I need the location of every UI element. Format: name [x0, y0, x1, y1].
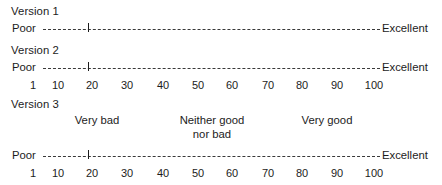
- version-1-heading: Version 1: [11, 5, 59, 17]
- scale-tick-label: 20: [86, 167, 98, 180]
- scale-tick-label: 50: [192, 79, 204, 92]
- version-3-anchor-poor: Poor: [12, 149, 36, 161]
- version-3-numeric-scale: 1102030405060708090100: [0, 167, 442, 180]
- scale-tick-label: 100: [365, 79, 383, 92]
- scale-tick-label: 20: [86, 79, 98, 92]
- version-1-anchor-excellent: Excellent: [382, 22, 428, 34]
- scale-tick-label: 40: [157, 79, 169, 92]
- version-3-anchor-excellent: Excellent: [382, 149, 428, 161]
- scale-tick-label: 90: [331, 79, 343, 92]
- version-2-heading: Version 2: [11, 44, 59, 56]
- scale-tick-label: 30: [121, 167, 133, 180]
- verbal-anchor-very-bad: Very bad: [75, 114, 120, 126]
- version-2-anchor-excellent: Excellent: [382, 61, 428, 73]
- scale-tick-label: 30: [121, 79, 133, 92]
- scale-tick-label: 10: [52, 167, 64, 180]
- version-2-response-tick[interactable]: [88, 62, 89, 71]
- scale-tick-label: 1: [30, 167, 36, 180]
- verbal-anchor-neither-good-line1: Neither good: [180, 114, 245, 126]
- scale-tick-label: 70: [262, 167, 274, 180]
- scale-tick-label: 80: [296, 167, 308, 180]
- rating-scale-figure: Version 1 Poor Excellent Version 2 Poor …: [0, 0, 442, 185]
- scale-tick-label: 50: [192, 167, 204, 180]
- version-1-scale-line[interactable]: [43, 29, 380, 30]
- version-2-numeric-scale: 1102030405060708090100: [0, 79, 442, 92]
- version-1-anchor-poor: Poor: [12, 22, 36, 34]
- scale-tick-label: 40: [157, 167, 169, 180]
- version-2-scale-line[interactable]: [43, 68, 380, 69]
- version-3-scale-line[interactable]: [43, 156, 380, 157]
- scale-tick-label: 10: [52, 79, 64, 92]
- version-3-response-tick[interactable]: [88, 150, 89, 159]
- scale-tick-label: 70: [262, 79, 274, 92]
- scale-tick-label: 60: [226, 79, 238, 92]
- scale-tick-label: 100: [365, 167, 383, 180]
- scale-tick-label: 80: [296, 79, 308, 92]
- verbal-anchor-neither-good-line2: nor bad: [193, 128, 231, 140]
- version-2-anchor-poor: Poor: [12, 61, 36, 73]
- version-1-response-tick[interactable]: [88, 23, 89, 32]
- version-3-heading: Version 3: [11, 98, 59, 110]
- scale-tick-label: 60: [226, 167, 238, 180]
- scale-tick-label: 90: [331, 167, 343, 180]
- scale-tick-label: 1: [30, 79, 36, 92]
- verbal-anchor-very-good: Very good: [302, 114, 353, 126]
